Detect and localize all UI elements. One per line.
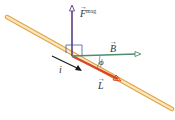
current-label: i <box>59 64 62 75</box>
angle-label: ϕ <box>99 57 104 67</box>
force-vector <box>70 5 75 56</box>
field-vector-arrow-glyph: → <box>110 38 117 46</box>
diagram-canvas: F → mag B → ϕ i L → <box>0 0 175 120</box>
force-superscript: mag <box>86 8 96 14</box>
wire <box>7 17 172 109</box>
length-vector-arrow-glyph: → <box>98 75 105 83</box>
